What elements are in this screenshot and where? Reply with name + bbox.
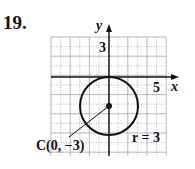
x-tick-label: 5 xyxy=(153,80,160,95)
y-axis-label: y xyxy=(94,18,103,33)
y-tick-label: 3 xyxy=(99,40,106,55)
center-leader-line xyxy=(69,106,109,137)
x-axis-label: x xyxy=(170,79,178,94)
radius-label: r = 3 xyxy=(132,130,160,145)
circle-graph: y x 3 5 C(0, −3) r = 3 xyxy=(0,0,195,169)
y-axis-arrow-icon xyxy=(106,24,112,32)
center-label: C(0, −3) xyxy=(36,138,85,154)
